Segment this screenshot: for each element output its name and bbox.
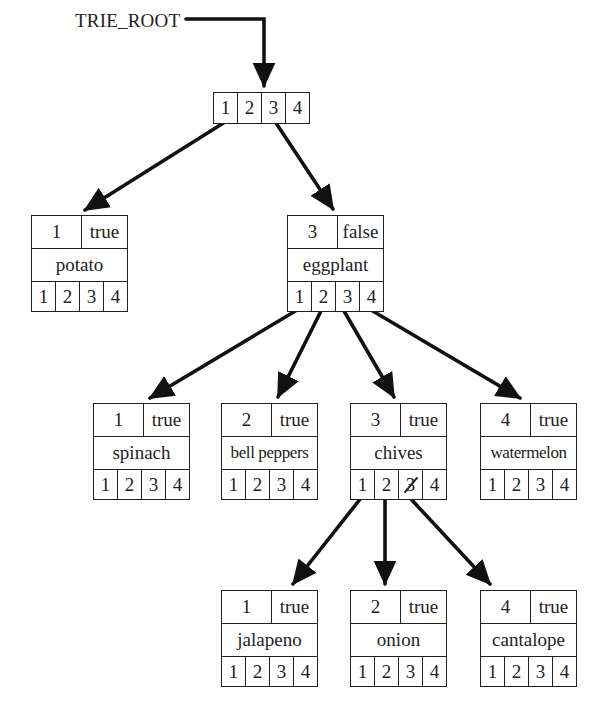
trie-node-bell-peppers: 2 true bell peppers 1 2 3 4 [221,403,318,500]
pointer-cell: 3 [528,470,552,499]
pointer-cell: 1 [214,93,237,123]
pointer-cell: 4 [103,282,127,311]
pointer-cell: 1 [288,282,311,311]
pointer-cell: 4 [293,657,317,686]
node-word: spinach [94,437,189,470]
pointer-cell: 1 [32,282,55,311]
pointer-cell: 4 [552,470,576,499]
pointer-cell: 3 [269,657,293,686]
pointer-cell: 2 [374,470,398,499]
node-word: chives [351,437,446,470]
trie-node-cantalope: 4 true cantalope 1 2 3 4 [480,590,577,687]
pointer-cell: 3 [269,470,293,499]
trie-root-label: TRIE_ROOT [75,10,180,32]
pointer-cell: 1 [481,470,504,499]
pointer-cell: 2 [245,470,269,499]
node-flag: true [82,216,127,248]
trie-node-onion: 2 true onion 1 2 3 4 [350,590,447,687]
trie-node-chives: 3 true chives 1 2 3 4 [350,403,447,500]
edge-eggplant-spinach [150,310,297,398]
edge-eggplant-watermelon [371,310,520,398]
pointer-cell: 4 [359,282,383,311]
pointer-cell: 3 [398,657,422,686]
pointer-cell: 2 [504,657,528,686]
node-key: 1 [32,216,82,248]
node-word: bell peppers [222,437,317,470]
node-flag: false [338,216,383,248]
node-key: 2 [351,591,401,623]
node-word: cantalope [481,624,576,657]
edge-root-eggplant [276,123,333,209]
pointer-cell: 3 [335,282,359,311]
node-word: potato [32,249,127,282]
edge-eggplant-chives [344,311,394,397]
node-flag: true [401,591,446,623]
pointer-cell: 4 [165,470,189,499]
node-key: 3 [288,216,338,248]
pointer-cell: 1 [94,470,117,499]
node-flag: true [272,591,317,623]
node-word: jalapeno [222,624,317,657]
struck-pointer-cell: 3 [398,470,422,499]
root-pointer-arrow [186,19,264,86]
node-key: 4 [481,591,531,623]
node-word: eggplant [288,249,383,282]
pointer-cell: 3 [141,470,165,499]
pointer-cell: 2 [311,282,335,311]
pointer-cell: 2 [117,470,141,499]
node-flag: true [531,591,576,623]
root-node-pointers: 1 2 3 4 [213,92,310,124]
node-key: 2 [222,404,272,436]
pointer-cell: 4 [293,470,317,499]
pointer-cell: 4 [285,93,309,123]
pointer-cell: 1 [351,657,374,686]
node-key: 4 [481,404,531,436]
pointer-cell: 3 [261,93,285,123]
pointer-cell: 2 [237,93,261,123]
pointer-cell: 1 [222,470,245,499]
edge-root-potato [85,122,225,210]
pointer-cell: 1 [222,657,245,686]
node-flag: true [531,404,576,436]
pointer-cell: 1 [481,657,504,686]
edge-chives-jalapeno [293,498,361,584]
node-key: 1 [94,404,144,436]
node-word: onion [351,624,446,657]
node-flag: true [272,404,317,436]
trie-node-eggplant: 3 false eggplant 1 2 3 4 [287,215,384,312]
pointer-cell: 4 [552,657,576,686]
pointer-cell: 4 [422,657,446,686]
pointer-cell: 3 [79,282,103,311]
pointer-cell: 2 [374,657,398,686]
pointer-cell: 2 [55,282,79,311]
trie-node-potato: 1 true potato 1 2 3 4 [31,215,128,312]
node-flag: true [401,404,446,436]
trie-node-spinach: 1 true spinach 1 2 3 4 [93,403,190,500]
node-key: 3 [351,404,401,436]
pointer-cell: 2 [245,657,269,686]
node-key: 1 [222,591,272,623]
edge-eggplant-bell-peppers [278,311,321,397]
node-flag: true [144,404,189,436]
pointer-cell: 1 [351,470,374,499]
pointer-cell: 2 [504,470,528,499]
trie-node-jalapeno: 1 true jalapeno 1 2 3 4 [221,590,318,687]
pointer-cell: 4 [422,470,446,499]
edge-chives-cantalope [410,498,490,584]
pointer-cell: 3 [528,657,552,686]
trie-node-watermelon: 4 true watermelon 1 2 3 4 [480,403,577,500]
node-word: watermelon [481,437,576,470]
